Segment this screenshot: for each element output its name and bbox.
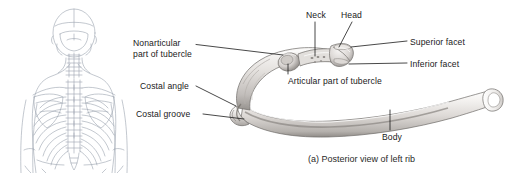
- label-neck: Neck: [306, 10, 326, 20]
- label-articular-part-of-tubercle: Articular part of tubercle: [288, 76, 382, 86]
- posterior-skeleton-orientation-drawing: [21, 9, 128, 173]
- leader-costal-angle: [196, 86, 236, 106]
- leader-nonarticular: [196, 45, 283, 56]
- leader-inferior-facet: [349, 63, 407, 64]
- label-superior-facet: Superior facet: [410, 37, 465, 47]
- leader-superior-facet: [351, 41, 407, 47]
- leader-head: [339, 22, 352, 47]
- figure-canvas: [0, 0, 513, 173]
- left-rib-posterior-illustration: [230, 44, 503, 138]
- anatomy-figure-left-rib: Nonarticular part of tubercle Costal ang…: [0, 0, 513, 173]
- label-costal-angle: Costal angle: [140, 81, 189, 91]
- label-costal-groove: Costal groove: [136, 109, 190, 119]
- label-body: Body: [382, 132, 402, 142]
- label-inferior-facet: Inferior facet: [410, 59, 459, 69]
- figure-caption: (a) Posterior view of left rib: [308, 154, 415, 164]
- label-nonarticular-part-of-tubercle: Nonarticular part of tubercle: [133, 38, 195, 59]
- label-head: Head: [341, 10, 362, 20]
